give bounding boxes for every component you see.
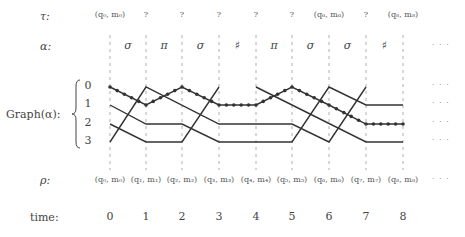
path-dot: [247, 103, 251, 107]
path-a: [110, 87, 366, 142]
path-dot: [151, 100, 155, 104]
path-dot: [225, 103, 229, 107]
path-dot: [401, 122, 405, 126]
path-dot: [261, 100, 265, 104]
path-dot: [386, 122, 390, 126]
path-dot: [342, 111, 346, 115]
path-dot: [239, 103, 243, 107]
path-dot: [312, 96, 316, 100]
path-dot: [349, 115, 353, 119]
path-dot: [188, 89, 192, 93]
path-dot: [276, 92, 280, 96]
path-dot: [217, 103, 221, 107]
path-dot: [269, 96, 273, 100]
path-dot: [130, 96, 134, 100]
path-dot: [364, 122, 368, 126]
path-dot: [108, 85, 112, 89]
path-dot: [123, 92, 127, 96]
path-dot: [144, 103, 148, 107]
path-dot: [166, 92, 170, 96]
path-dot: [195, 92, 199, 96]
path-dot: [115, 89, 119, 93]
left-brace: [72, 80, 80, 148]
path-dot: [159, 96, 163, 100]
path-dot: [335, 107, 339, 111]
path-dot: [232, 103, 236, 107]
path-dot: [202, 96, 206, 100]
path-dot: [372, 122, 376, 126]
path-dot: [394, 122, 398, 126]
path-dot: [173, 89, 177, 93]
path-dot: [290, 85, 294, 89]
path-dot: [298, 89, 302, 93]
path-dot: [327, 103, 331, 107]
path-dot: [357, 118, 361, 122]
path-dot: [305, 92, 309, 96]
path-dot: [283, 89, 287, 93]
path-dot: [180, 85, 184, 89]
graph-diagram: [0, 0, 465, 237]
path-dot: [254, 103, 258, 107]
path-dot: [379, 122, 383, 126]
path-b: [110, 87, 403, 142]
